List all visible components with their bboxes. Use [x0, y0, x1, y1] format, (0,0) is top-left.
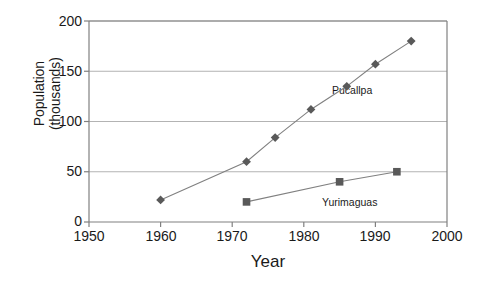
axis-ticks [84, 21, 447, 227]
gridlines [89, 21, 447, 172]
data-point-pucallpa-1986 [342, 82, 351, 91]
data-point-yurimaguas-1972 [243, 198, 251, 206]
data-point-pucallpa-1990 [371, 60, 380, 69]
data-point-pucallpa-1960 [156, 195, 165, 204]
data-point-yurimaguas-1993 [393, 168, 401, 176]
data-point-pucallpa-1995 [407, 37, 416, 46]
plot-area [0, 0, 482, 287]
data-point-yurimaguas-1985 [336, 178, 344, 186]
series-line-yurimaguas [247, 172, 397, 202]
population-line-chart: Population (thousands) 200 150 100 50 0 … [0, 0, 482, 287]
